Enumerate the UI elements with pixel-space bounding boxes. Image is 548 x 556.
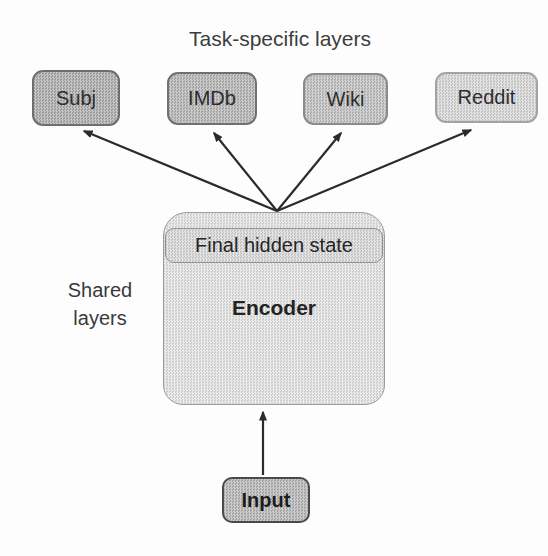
task-box-reddit-label: Reddit — [458, 86, 516, 109]
task-box-wiki: Wiki — [303, 73, 388, 125]
shared-layers-label: Shared layers — [40, 276, 160, 332]
task-box-subj: Subj — [32, 70, 120, 126]
arrow-encoder-to-subj — [84, 131, 277, 211]
encoder-box: Final hidden state Encoder — [163, 212, 385, 405]
final-hidden-state-label: Final hidden state — [195, 234, 353, 257]
diagram-canvas: Task-specific layers Subj IMDb Wiki Redd… — [0, 0, 548, 556]
input-box: Input — [222, 477, 310, 523]
task-box-imdb-label: IMDb — [188, 87, 236, 110]
task-specific-layers-label: Task-specific layers — [140, 27, 420, 51]
task-box-reddit: Reddit — [435, 72, 538, 123]
arrow-encoder-to-reddit — [277, 130, 471, 211]
arrow-encoder-to-wiki — [277, 133, 341, 211]
final-hidden-state-bar: Final hidden state — [165, 228, 383, 263]
input-box-label: Input — [242, 489, 291, 512]
task-box-subj-label: Subj — [56, 87, 96, 110]
task-box-imdb: IMDb — [167, 72, 257, 125]
task-box-wiki-label: Wiki — [327, 88, 365, 111]
arrow-encoder-to-imdb — [214, 133, 277, 211]
encoder-label: Encoder — [164, 296, 384, 320]
